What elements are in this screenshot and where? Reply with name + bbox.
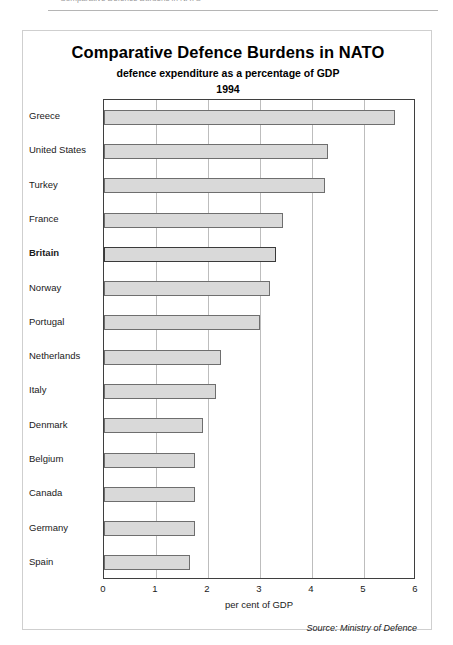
bar	[104, 384, 216, 399]
bar	[104, 213, 283, 228]
scan-header-text: Comparative Defence Burdens in NATO	[60, 0, 202, 3]
category-label: Canada	[29, 487, 103, 498]
bar	[104, 487, 195, 502]
category-label: Spain	[29, 556, 103, 567]
x-axis-ticks: 0123456	[103, 583, 415, 599]
category-label: Italy	[29, 384, 103, 395]
bar	[104, 315, 260, 330]
bar	[104, 350, 221, 365]
category-label: Britain	[29, 247, 103, 258]
bar	[104, 281, 270, 296]
bar	[104, 418, 203, 433]
bar	[104, 178, 325, 193]
bar-series	[104, 100, 414, 578]
chart-subtitle: defence expenditure as a percentage of G…	[23, 67, 433, 79]
category-axis-labels: GreeceUnited StatesTurkeyFranceBritainNo…	[29, 99, 103, 579]
category-label: Norway	[29, 282, 103, 293]
x-tick-label: 2	[204, 583, 209, 594]
category-label: Belgium	[29, 453, 103, 464]
source-note: Source: Ministry of Defence	[306, 623, 417, 633]
chart-page-card: Comparative Defence Burdens in NATO defe…	[22, 30, 432, 630]
bar	[104, 453, 195, 468]
bar	[104, 144, 328, 159]
category-label: Denmark	[29, 419, 103, 430]
x-tick-label: 3	[256, 583, 261, 594]
x-tick-label: 6	[412, 583, 417, 594]
scan-header-strip: Comparative Defence Burdens in NATO	[0, 0, 453, 12]
category-label: Germany	[29, 522, 103, 533]
category-label: Turkey	[29, 179, 103, 190]
category-label: Portugal	[29, 316, 103, 327]
x-axis-label: per cent of GDP	[103, 599, 415, 610]
x-tick-label: 0	[100, 583, 105, 594]
x-tick-label: 4	[308, 583, 313, 594]
bar	[104, 555, 190, 570]
category-label: United States	[29, 144, 103, 155]
x-tick-label: 1	[152, 583, 157, 594]
category-label: Netherlands	[29, 350, 103, 361]
bar	[104, 247, 276, 262]
chart-title: Comparative Defence Burdens in NATO	[23, 43, 433, 62]
category-label: Greece	[29, 110, 103, 121]
category-label: France	[29, 213, 103, 224]
plot-area	[103, 99, 415, 579]
chart-year: 1994	[23, 83, 433, 95]
scan-header-rule	[48, 10, 438, 11]
bar	[104, 110, 395, 125]
x-tick-label: 5	[360, 583, 365, 594]
bar	[104, 521, 195, 536]
